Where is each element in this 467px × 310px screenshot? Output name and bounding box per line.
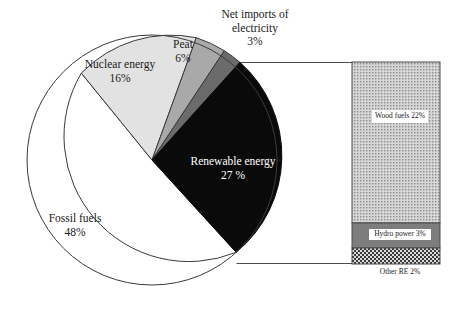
bar-label-hydro-power: Hydro power 3% — [369, 229, 431, 240]
pie-label-fossil-fuels-pct: 48% — [23, 226, 127, 240]
bar-label-hydro-power-text: Hydro power — [374, 229, 414, 238]
bar-segment-other-re[interactable] — [352, 248, 440, 264]
pie-label-nuclear-energy-text: Nuclear energy — [85, 58, 155, 70]
pie-label-fossil-fuels-text: Fossil fuels — [49, 212, 102, 224]
bar-segment-wood-fuels[interactable] — [352, 62, 440, 223]
pie-label-renewable-energy: Renewable energy 27 % — [172, 155, 294, 182]
energy-supply-pie-figure: Nuclear energy 16% Peat 6% Net imports o… — [0, 0, 467, 310]
pie-label-net-imports-pct: 3% — [200, 35, 310, 49]
pie-label-net-imports-of-electricity: Net imports of electricity 3% — [200, 8, 310, 49]
bar-label-other-re: Other RE 2% — [366, 268, 434, 277]
pie-label-peat-text: Peat — [173, 38, 193, 50]
pie-label-peat-pct: 6% — [159, 52, 207, 66]
pie-label-renewable-energy-pct: 27 % — [172, 169, 294, 183]
pie-label-fossil-fuels: Fossil fuels 48% — [23, 212, 127, 239]
pie-label-net-imports-line1: Net imports of — [221, 8, 288, 20]
bar-label-wood-fuels: Wood fuels 22% — [372, 110, 428, 123]
pie-label-renewable-energy-text: Renewable energy — [190, 155, 275, 167]
pie-label-nuclear-energy-pct: 16% — [63, 72, 177, 86]
bar-label-other-re-pct: 2% — [410, 267, 420, 276]
pie-label-net-imports-line2: electricity — [200, 22, 310, 36]
bar-label-other-re-text: Other RE — [380, 267, 409, 276]
bar-label-hydro-power-pct: 3% — [416, 229, 426, 238]
bar-label-wood-fuels-pct: 22% — [411, 111, 425, 120]
bar-label-wood-fuels-text: Wood fuels — [375, 111, 409, 120]
